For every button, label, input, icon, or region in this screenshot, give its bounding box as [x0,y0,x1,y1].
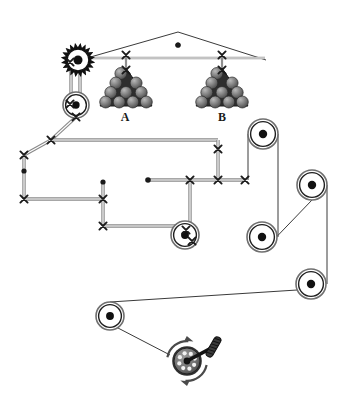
pulley-bottom-left-hub [106,312,114,320]
pulley-right-top [248,119,278,149]
pulley-right-bottom-hub [307,280,315,288]
load-a-ball [113,96,125,108]
dot-roof-center [175,42,180,47]
pulley-right-top-hub [259,130,267,138]
pulley-right-lower-hub [258,233,266,241]
dot-left-rope [21,168,26,173]
winch-pin [177,361,181,365]
winch-pin [183,351,187,355]
winch-pin [189,352,193,356]
winch-pin [187,367,191,371]
winch-pin [178,355,182,359]
winch-pin [192,363,196,367]
load-a-ball [100,96,112,108]
load-b-ball [196,96,208,108]
gear-wheel [61,43,95,77]
load-b-ball [236,96,248,108]
load-b-ball [223,96,235,108]
pulley-right-upper [297,170,327,200]
gear-hub [74,56,83,65]
load-a-ball [140,96,152,108]
pulley-right-lower [247,222,277,252]
pulley-bottom-left [96,302,124,330]
load-a-ball [127,96,139,108]
pulley-system-diagram: AB [0,0,345,408]
load-b-ball [209,96,221,108]
gear-layer [61,43,95,77]
dot-rope-end [145,177,151,183]
winch-pin [181,366,185,370]
pulley-right-upper-hub [308,181,316,189]
diagram-canvas: AB [0,0,345,408]
dot-mid-vert [100,179,105,184]
load-b-label: B [218,110,226,124]
pulley-upper-left [63,92,89,118]
load-a-label: A [121,110,130,124]
pulley-right-bottom [296,269,326,299]
